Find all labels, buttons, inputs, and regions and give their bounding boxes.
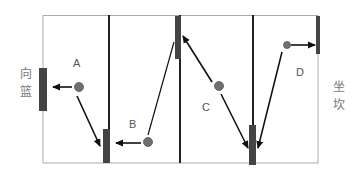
ball-a [75,83,84,92]
arrow-c-up [183,36,212,82]
arrow-c-down [221,94,248,148]
side-label-left-char-2: 篮 [19,83,33,101]
bar-divider-3-bottom [249,125,256,165]
ball-d [284,42,291,49]
line-b-up [148,42,174,135]
label-c: C [202,101,210,113]
bar-divider-2-top [175,16,181,59]
side-label-right-char-1: 坐 [332,78,346,96]
side-label-right: 坐 坎 [332,78,346,114]
arrow-a-down [77,96,100,146]
label-b: B [129,118,136,130]
bar-divider-1-bottom [103,129,110,163]
label-d: D [296,66,304,78]
bar-left-wall [39,68,47,111]
side-label-right-char-2: 坎 [332,96,346,114]
bar-right-wall [316,16,320,54]
ball-b [144,138,153,147]
side-label-left-char-1: 向 [19,65,33,83]
court-diagram [0,0,359,176]
label-a: A [73,57,80,69]
side-label-left: 向 篮 [19,65,33,101]
arrow-d-down [258,52,282,148]
ball-c [215,82,224,91]
